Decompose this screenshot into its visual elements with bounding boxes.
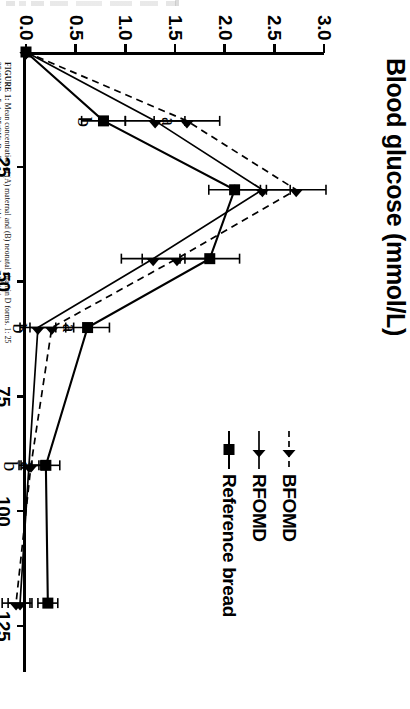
legend-marker	[221, 430, 239, 470]
significance-letter: b	[10, 324, 30, 334]
square-marker-icon	[82, 322, 93, 333]
triangle-marker-icon	[147, 259, 160, 267]
legend-label: RFOMD	[249, 474, 271, 542]
figure-plot-area: Blood glucose (mmol/L) 0.00.51.01.52.02.…	[0, 0, 410, 709]
chart-data-layer	[0, 0, 410, 709]
triangle-marker-icon	[170, 259, 183, 267]
square-marker-icon	[42, 598, 53, 609]
square-marker-icon	[98, 115, 109, 126]
triangle-icon	[253, 450, 266, 458]
legend-label: BFOMD	[279, 474, 301, 542]
legend-item: Reference bread	[217, 430, 242, 660]
legend-label: Reference bread	[219, 474, 241, 617]
legend-item: BFOMD	[277, 430, 302, 660]
legend-marker	[251, 430, 269, 470]
significance-letter: a	[18, 461, 38, 470]
triangle-icon	[283, 450, 296, 458]
square-marker-icon	[229, 184, 240, 195]
significance-letter: b	[75, 117, 95, 127]
legend-marker	[281, 430, 299, 470]
square-icon	[224, 444, 235, 455]
square-marker-icon	[40, 460, 51, 471]
chart-legend: BFOMDRFOMDReference bread	[212, 430, 302, 660]
significance-letter: a	[60, 324, 80, 333]
significance-letter: a	[159, 117, 179, 126]
square-marker-icon	[204, 253, 215, 264]
square-marker-icon	[21, 47, 32, 58]
legend-item: RFOMD	[247, 430, 272, 660]
triangle-marker-icon	[290, 190, 303, 198]
triangle-marker-icon	[31, 328, 44, 336]
